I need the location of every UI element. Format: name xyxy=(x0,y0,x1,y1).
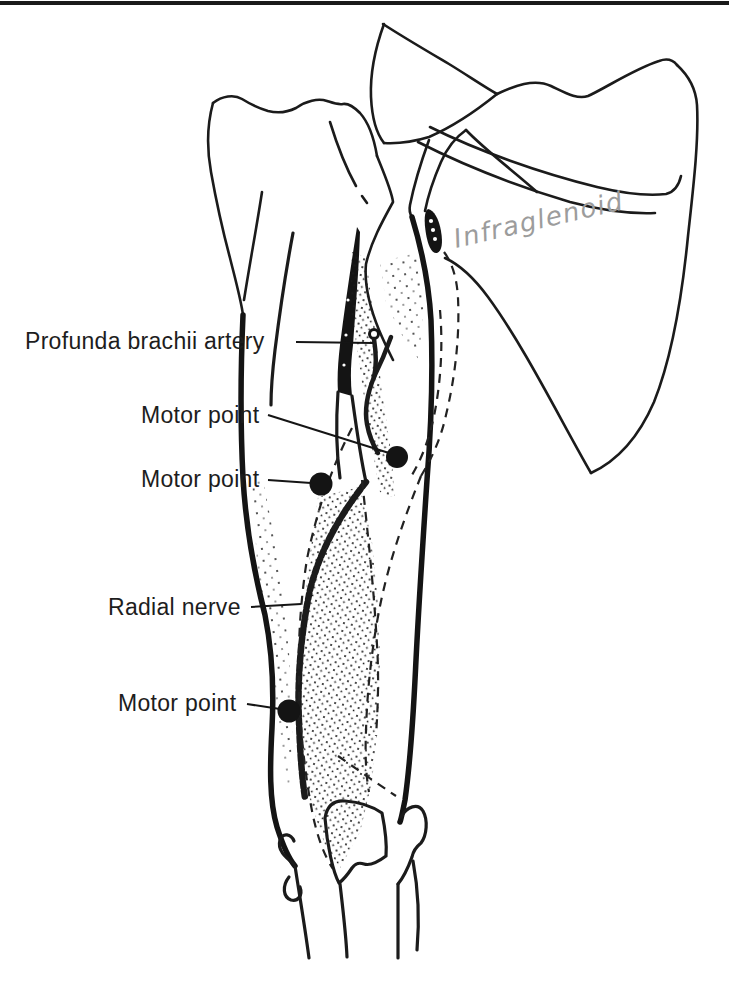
scapula-medial-border xyxy=(591,65,697,473)
acromion-top-edge xyxy=(383,24,497,94)
humeral-head-top-edge xyxy=(213,96,377,156)
tendon-right-edge xyxy=(352,396,366,482)
acromion-bottom-edge xyxy=(384,94,497,143)
forearm-left-line xyxy=(295,866,309,958)
origin-mark-fleck xyxy=(429,219,433,223)
page-top-rule xyxy=(0,1,729,5)
humerus-medial-inner-line xyxy=(244,192,262,300)
tendon-left-edge xyxy=(337,392,340,478)
motor-point-dot-3 xyxy=(278,700,301,723)
label-radial-nerve: Radial nerve xyxy=(108,594,241,620)
label-profunda-brachii-artery: Profunda brachii artery xyxy=(25,328,265,354)
ulna-right-line xyxy=(413,861,418,950)
infraspinous-fossa-curve xyxy=(466,130,537,192)
acromion-left-edge xyxy=(371,24,384,143)
handwritten-pencil-annotation: Infraglenoid xyxy=(451,186,627,254)
spike-fleck xyxy=(342,363,345,366)
figure-labels: Profunda brachii artery Motor point Moto… xyxy=(25,328,265,716)
lateral-head-border-line xyxy=(271,233,293,405)
label-motor-point-2: Motor point xyxy=(141,466,260,492)
humerus-left-edge xyxy=(208,103,243,315)
origin-mark-fleck xyxy=(431,228,435,232)
forearm-mid-line xyxy=(340,884,347,957)
spike-fleck xyxy=(346,298,349,301)
origin-mark-fleck xyxy=(433,237,437,241)
leader-motor-point-2 xyxy=(268,480,311,483)
label-motor-point-3: Motor point xyxy=(118,690,237,716)
motor-point-dot-2 xyxy=(310,473,333,496)
spike-fleck xyxy=(344,333,347,336)
motor-point-dot-1 xyxy=(386,446,408,468)
leader-profunda-artery xyxy=(296,342,373,343)
stipple-shading xyxy=(252,252,424,868)
anatomical-figure: Profunda brachii artery Motor point Moto… xyxy=(0,0,729,982)
scapula-lateral-border xyxy=(445,258,591,473)
humeral-head-inner-line xyxy=(330,122,367,203)
scapular-spine-line-1 xyxy=(430,127,681,195)
label-motor-point-1: Motor point xyxy=(141,402,260,428)
scanned-page: Profunda brachii artery Motor point Moto… xyxy=(0,0,729,982)
scapula-superior-ridge xyxy=(497,60,677,97)
